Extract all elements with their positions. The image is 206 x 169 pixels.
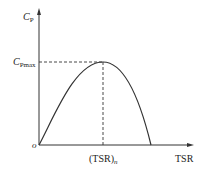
origin-label: o [32, 141, 37, 150]
y-axis-arrow-icon [37, 8, 41, 15]
cp-tsr-diagram [0, 0, 206, 169]
y-axis-label-sub: P [30, 16, 34, 24]
x-axis-arrow-icon [187, 143, 194, 147]
y-axis-label: CP [23, 12, 34, 22]
cp-curve [39, 62, 151, 145]
tsr-n-label-sub: n [114, 158, 118, 166]
tsr-n-label-main: (TSR) [89, 153, 114, 164]
cpmax-label: CPmax [13, 57, 36, 67]
y-axis-label-main: C [23, 11, 30, 22]
x-axis-label: TSR [175, 154, 193, 164]
cpmax-label-sub: Pmax [20, 61, 36, 69]
tsr-n-label: (TSR)n [89, 154, 118, 164]
cpmax-label-main: C [13, 56, 20, 67]
